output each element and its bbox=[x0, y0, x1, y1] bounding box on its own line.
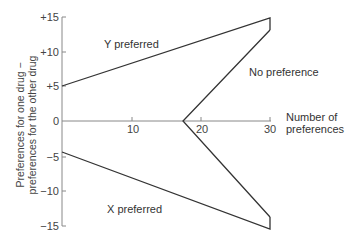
x-axis-label-line2: preferences bbox=[286, 123, 345, 135]
x-tick-label: 30 bbox=[264, 123, 276, 135]
y-tick-label: +10 bbox=[40, 46, 59, 58]
svg-text:preferences for the other drug: preferences for the other drug bbox=[26, 55, 38, 194]
y-tick-label: +5 bbox=[46, 80, 59, 92]
annotation-x-preferred: X preferred bbox=[107, 203, 162, 215]
y-tick-label: −15 bbox=[40, 220, 59, 232]
y-axis-label: Preferences for one drug − preferences f… bbox=[14, 55, 38, 194]
y-tick-label: −10 bbox=[40, 185, 59, 197]
x-tick-label: 10 bbox=[127, 123, 139, 135]
annotation-y-preferred: Y preferred bbox=[104, 38, 159, 50]
lower-boundary-line bbox=[62, 152, 270, 229]
annotation-no-preference: No preference bbox=[249, 66, 319, 78]
svg-text:Preferences for one drug −: Preferences for one drug − bbox=[14, 62, 26, 187]
y-tick-label: −5 bbox=[46, 151, 59, 163]
y-tick-label: 0 bbox=[53, 115, 59, 127]
x-axis-label-line1: Number of bbox=[286, 111, 338, 123]
upper-boundary-line bbox=[62, 18, 270, 86]
x-tick-label: 20 bbox=[196, 123, 208, 135]
y-tick-label: +15 bbox=[40, 11, 59, 23]
chart: +15 +10 +5 0 −5 −10 −15 10 20 30 Number … bbox=[0, 0, 348, 245]
x-ticks bbox=[132, 117, 270, 121]
